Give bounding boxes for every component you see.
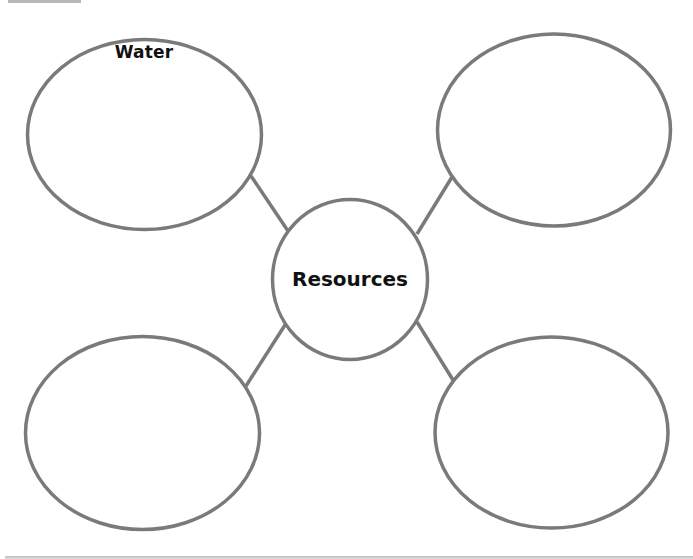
center-label: Resources bbox=[292, 267, 408, 291]
connector-top-left bbox=[251, 176, 288, 231]
bubble-top-right[interactable] bbox=[438, 34, 671, 226]
bubble-label-top-left: Water bbox=[115, 42, 174, 62]
connector-bottom-left bbox=[246, 325, 285, 386]
connector-bottom-right bbox=[417, 322, 453, 380]
bubble-bottom-right[interactable] bbox=[435, 337, 668, 528]
bubble-bottom-left[interactable] bbox=[26, 337, 260, 530]
connector-top-right bbox=[417, 177, 452, 234]
bubble-top-left[interactable] bbox=[28, 40, 262, 230]
